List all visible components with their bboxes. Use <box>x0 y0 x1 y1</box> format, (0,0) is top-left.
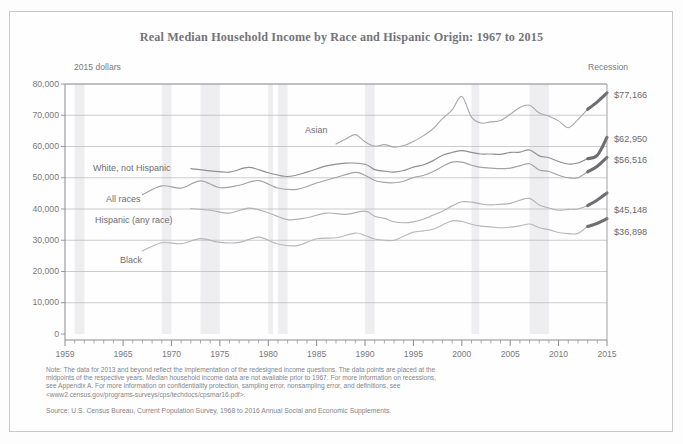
axis-group <box>61 84 607 340</box>
end-value-label-all-races: $56,516 <box>614 155 647 165</box>
series-endpoint-emphasis-black <box>588 219 607 227</box>
y-axis-tick-label-8: 80,000 <box>11 79 59 89</box>
series-label-all-races: All races <box>106 194 141 204</box>
series-label-white-not-hispanic: White, not Hispanic <box>93 163 171 173</box>
series-label-hispanic-any-race: Hispanic (any race) <box>95 215 173 225</box>
footnote-line-1: Note: The data for 2013 and beyond refle… <box>46 366 656 374</box>
x-axis-tick-label-2: 1970 <box>150 349 192 359</box>
y-axis-tick-label-7: 70,000 <box>11 110 59 120</box>
y-axis-tick-label-6: 60,000 <box>11 141 59 151</box>
x-axis-ticks-group <box>65 340 607 346</box>
x-axis-tick-label-8: 2000 <box>441 349 483 359</box>
gridlines-group <box>65 84 607 303</box>
series-label-black: Black <box>120 255 142 265</box>
chart-footnote: Note: The data for 2013 and beyond refle… <box>46 366 656 399</box>
y-axis-tick-label-3: 30,000 <box>11 235 59 245</box>
end-value-label-hispanic-any-race: $45,148 <box>614 205 647 215</box>
footnote-line-3: see Appendix A. For more information on … <box>46 382 656 390</box>
x-axis-tick-label-7: 1995 <box>392 349 434 359</box>
end-value-label-white-not-hispanic: $62,950 <box>614 134 647 144</box>
footnote-line-2: midpoints of the respective years. Media… <box>46 374 656 382</box>
series-endpoint-emphasis-white-not-hispanic <box>588 137 607 158</box>
series-endpoint-emphasis-group <box>588 93 607 227</box>
x-axis-tick-label-4: 1980 <box>247 349 289 359</box>
x-axis-tick-label-3: 1975 <box>199 349 241 359</box>
y-axis-tick-label-4: 40,000 <box>11 204 59 214</box>
y-axis-tick-label-0: 0 <box>11 329 59 339</box>
y-axis-tick-label-5: 50,000 <box>11 172 59 182</box>
chart-source: Source: U.S. Census Bureau, Current Popu… <box>46 407 656 414</box>
figure-container: Real Median Household Income by Race and… <box>0 0 683 444</box>
x-axis-tick-label-1: 1965 <box>102 349 144 359</box>
end-value-label-asian: $77,166 <box>614 90 647 100</box>
x-axis-tick-label-9: 2005 <box>489 349 531 359</box>
series-endpoint-emphasis-asian <box>588 93 607 109</box>
y-axis-tick-label-1: 10,000 <box>11 297 59 307</box>
series-label-asian: Asian <box>305 125 328 135</box>
x-axis-tick-label-6: 1990 <box>344 349 386 359</box>
series-endpoint-emphasis-hispanic-any-race <box>588 193 607 206</box>
end-value-label-black: $36,898 <box>614 227 647 237</box>
x-axis-tick-label-5: 1985 <box>296 349 338 359</box>
footnote-line-4: <www2.census.gov/programs-surveys/cps/te… <box>46 391 656 399</box>
x-axis-tick-label-10: 2010 <box>538 349 580 359</box>
y-axis-tick-label-2: 20,000 <box>11 266 59 276</box>
x-axis-tick-label-11: 2015 <box>586 349 628 359</box>
x-axis-tick-label-0: 1959 <box>44 349 86 359</box>
